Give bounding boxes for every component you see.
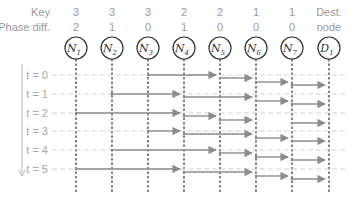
arrow-origin-dot (219, 152, 222, 155)
phase-timing-diagram: Key Phase diff. Dest. node 32N131N230N32… (0, 0, 354, 198)
arrow-origin-dot (255, 137, 258, 140)
node-n1: 32N1 (65, 6, 87, 192)
time-axis-arrow (19, 64, 25, 176)
phase-value: 2 (73, 21, 79, 33)
arrow-origin-dot (255, 81, 258, 84)
arrow-origin-dot (291, 178, 294, 181)
node-n3: 30N3 (137, 6, 159, 192)
key-value: 2 (217, 6, 223, 18)
arrow-origin-dot (75, 168, 78, 171)
arrow-origin-dot (219, 119, 222, 122)
time-label: t = 3 (26, 125, 48, 137)
node-n5: 20N5 (209, 6, 231, 192)
arrow-origin-dot (291, 84, 294, 87)
key-value: 3 (145, 6, 151, 18)
node-n6: 10N6 (245, 6, 267, 192)
time-label: t = 5 (26, 163, 48, 175)
arrow-origin-dot (219, 77, 222, 80)
phase-value: 0 (217, 21, 223, 33)
key-row-label: Key (31, 6, 50, 18)
time-label: t = 4 (26, 144, 48, 156)
time-label: t = 2 (26, 107, 48, 119)
key-value: 1 (289, 6, 295, 18)
arrow-origin-dot (183, 133, 186, 136)
arrow-origin-dot (183, 96, 186, 99)
arrow-origin-dot (291, 122, 294, 125)
time-row-4: t = 4 (26, 144, 348, 161)
key-value: 2 (181, 6, 187, 18)
arrow-origin-dot (255, 175, 258, 178)
arrow-origin-dot (291, 103, 294, 106)
time-rows-layer: t = 0t = 1t = 2t = 3t = 4t = 5 (26, 69, 348, 180)
key-value: 3 (109, 6, 115, 18)
arrow-origin-dot (111, 149, 114, 152)
arrow-origin-dot (255, 100, 258, 103)
node-n4: 21N4 (173, 6, 195, 192)
arrow-origin-dot (111, 93, 114, 96)
phase-value: 0 (289, 21, 295, 33)
arrow-origin-dot (183, 115, 186, 118)
arrow-origin-dot (75, 112, 78, 115)
phase-value: 1 (181, 21, 187, 33)
phase-value: 0 (145, 21, 151, 33)
time-row-5: t = 5 (26, 163, 348, 180)
dest-label-line2: node (317, 21, 341, 33)
time-label: t = 0 (26, 69, 48, 81)
node-n7: 10N7 (281, 6, 303, 192)
arrow-origin-dot (147, 74, 150, 77)
time-row-0: t = 0 (26, 69, 348, 86)
phase-value: 1 (109, 21, 115, 33)
key-value: 1 (253, 6, 259, 18)
time-label: t = 1 (26, 88, 48, 100)
arrow-origin-dot (291, 140, 294, 143)
phase-row-label: Phase diff. (0, 21, 50, 33)
dest-label-line1: Dest. (316, 6, 342, 18)
arrow-origin-dot (147, 130, 150, 133)
time-row-3: t = 3 (26, 125, 348, 142)
phase-value: 0 (253, 21, 259, 33)
node-n2: 31N2 (101, 6, 123, 192)
arrow-origin-dot (291, 159, 294, 162)
nodes-layer: 32N131N230N321N420N510N610N7D1 (65, 6, 340, 192)
arrow-origin-dot (183, 171, 186, 174)
arrow-origin-dot (255, 156, 258, 159)
time-row-2: t = 2 (26, 107, 348, 124)
key-value: 3 (73, 6, 79, 18)
time-row-1: t = 1 (26, 88, 348, 105)
